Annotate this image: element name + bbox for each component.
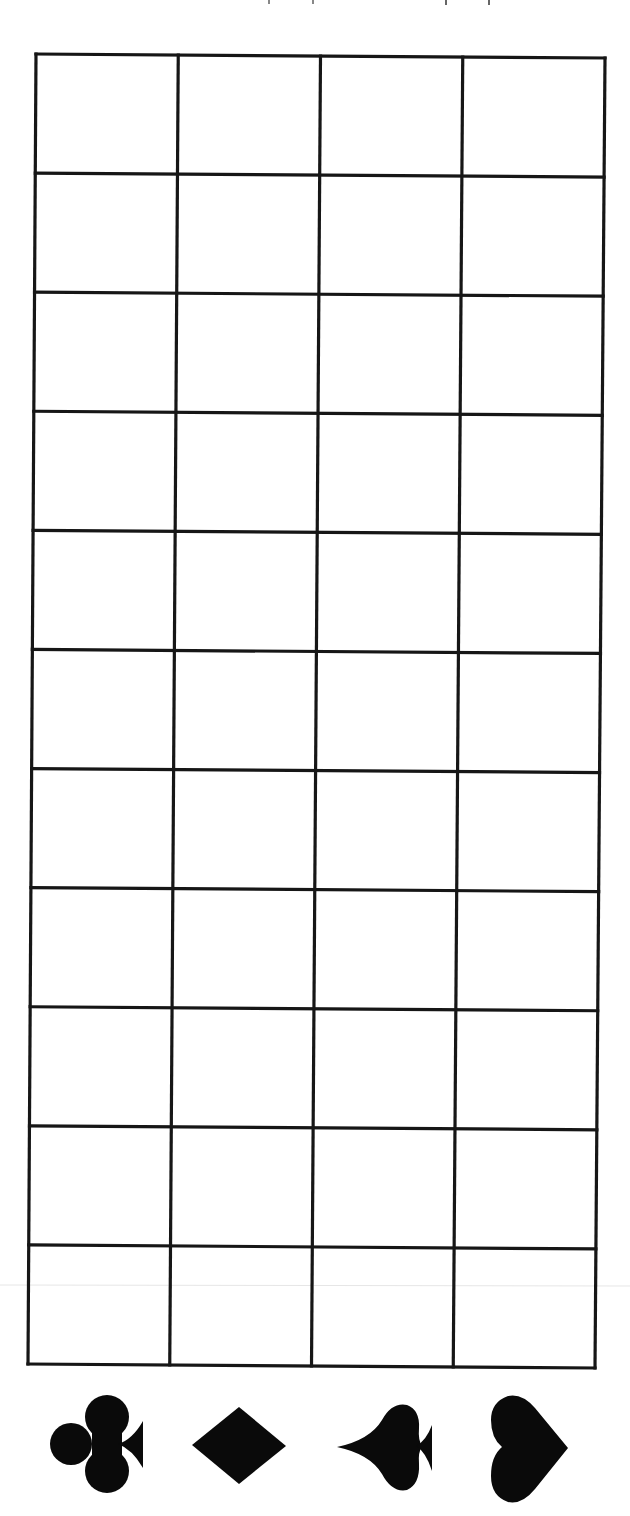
grid-cell-r1-c3[interactable] [320,56,463,176]
grid-cell-r10-c2[interactable] [171,1127,314,1247]
club-icon [50,1395,143,1493]
grid-cell-r6-c2[interactable] [174,650,317,770]
heart-icon [491,1396,568,1503]
grid-cell-r3-c1[interactable] [34,292,177,412]
grid-cell-r5-c4[interactable] [458,533,601,653]
grid-cell-r2-c3[interactable] [319,175,462,295]
grid-cell-r8-c2[interactable] [172,889,315,1009]
grid-cell-r9-c4[interactable] [455,1010,598,1130]
grid-cell-r4-c4[interactable] [459,414,602,534]
grid-cell-r1-c4[interactable] [462,57,605,177]
grid-cell-r11-c1[interactable] [28,1245,171,1365]
grid-cell-r3-c2[interactable] [176,293,319,413]
grid-cell-r10-c4[interactable] [454,1129,597,1249]
grid-cell-r4-c3[interactable] [317,413,460,533]
grid-cell-r2-c4[interactable] [461,176,604,296]
grid-cell-r5-c1[interactable] [32,530,175,650]
grid-cell-r8-c3[interactable] [314,890,457,1010]
grid-cell-r7-c4[interactable] [457,772,600,892]
grid-cell-r6-c1[interactable] [32,649,175,769]
grid-cell-r2-c1[interactable] [35,173,178,293]
grid-cell-r11-c3[interactable] [312,1247,455,1367]
grid-cell-r6-c3[interactable] [316,651,459,771]
grid-cell-r2-c2[interactable] [177,174,320,294]
grid-cell-r10-c3[interactable] [312,1128,455,1248]
grid-cell-r5-c3[interactable] [316,532,459,652]
grid-cell-r11-c2[interactable] [170,1246,313,1366]
grid-cell-r6-c4[interactable] [458,652,601,772]
grid-cell-r7-c1[interactable] [31,769,174,889]
grid-cell-r4-c1[interactable] [33,411,176,531]
grid-cell-r9-c1[interactable] [29,1007,172,1127]
grid-cell-r7-c2[interactable] [173,770,316,890]
grid-cell-r3-c3[interactable] [318,294,461,414]
grid-cell-r1-c2[interactable] [177,55,320,175]
grid-cell-r7-c3[interactable] [315,771,458,891]
suit-tally-worksheet [0,0,630,1516]
grid-cell-r1-c1[interactable] [35,54,178,174]
grid-cell-r5-c2[interactable] [174,531,317,651]
grid-cell-r9-c2[interactable] [171,1008,314,1128]
grid-cell-r11-c4[interactable] [453,1248,596,1368]
top-text-fragment [268,0,490,5]
grid-cell-r10-c1[interactable] [29,1126,172,1246]
spade-icon [337,1405,432,1491]
diamond-icon [192,1407,286,1484]
grid-cell-r8-c4[interactable] [456,891,599,1011]
grid-cell-r3-c4[interactable] [460,295,603,415]
grid-cell-r9-c3[interactable] [313,1009,456,1129]
suit-row [50,1395,568,1502]
grid-cell-r4-c2[interactable] [175,412,318,532]
grid-cell-r8-c1[interactable] [30,888,173,1008]
